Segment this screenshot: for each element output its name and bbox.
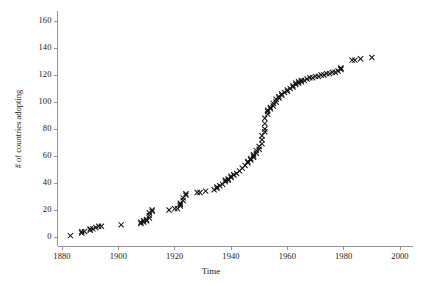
axis-spines xyxy=(58,11,414,246)
x-tick-label: 1880 xyxy=(45,251,79,261)
chart-svg xyxy=(0,0,422,286)
y-tick-label: 40 xyxy=(26,177,52,187)
data-markers xyxy=(68,55,375,238)
y-tick-label: 140 xyxy=(26,42,52,52)
y-tick-label: 100 xyxy=(26,96,52,106)
x-tick-label: 1900 xyxy=(101,251,135,261)
x-tick-label: 1940 xyxy=(214,251,248,261)
data-point-marker xyxy=(358,56,363,61)
data-point-marker xyxy=(369,55,374,60)
data-point-marker xyxy=(99,224,104,229)
y-tick-label: 60 xyxy=(26,150,52,160)
data-point-marker xyxy=(172,206,177,211)
data-point-marker xyxy=(68,233,73,238)
scatter-plot-canvas xyxy=(0,0,422,286)
y-tick-label: 20 xyxy=(26,204,52,214)
x-axis-title: Time xyxy=(0,266,422,276)
data-point-marker xyxy=(262,121,267,126)
data-point-marker xyxy=(352,58,357,63)
data-point-marker xyxy=(166,207,171,212)
y-tick-label: 0 xyxy=(26,231,52,241)
y-axis-ticks xyxy=(54,21,58,237)
x-axis-ticks xyxy=(62,246,400,250)
x-tick-label: 1980 xyxy=(327,251,361,261)
x-tick-label: 1920 xyxy=(158,251,192,261)
data-point-marker xyxy=(119,222,124,227)
y-tick-label: 160 xyxy=(26,15,52,25)
x-tick-label: 1960 xyxy=(270,251,304,261)
data-point-marker xyxy=(195,190,200,195)
series-0 xyxy=(68,55,375,238)
data-point-marker xyxy=(203,189,208,194)
y-tick-label: 80 xyxy=(26,123,52,133)
y-axis-title: # of countries adopting xyxy=(13,59,23,199)
data-point-marker xyxy=(262,126,267,131)
data-point-marker xyxy=(197,190,202,195)
chart-figure: # of countries adopting Time 02040608010… xyxy=(0,0,422,286)
data-point-marker xyxy=(350,58,355,63)
y-tick-label: 120 xyxy=(26,69,52,79)
x-tick-label: 2000 xyxy=(383,251,417,261)
